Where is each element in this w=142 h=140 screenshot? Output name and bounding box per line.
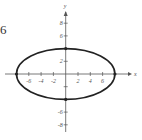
y-tick-label: -8 (58, 122, 63, 128)
x-tick-label: -4 (39, 78, 44, 84)
x-tick-label: 6 (101, 78, 104, 84)
y-axis-arrow-icon (64, 11, 68, 16)
y-tick-label: 2 (60, 58, 63, 64)
x-axis-label: x (133, 71, 137, 77)
y-tick-label: -6 (58, 109, 63, 115)
x-tick-label: 4 (89, 78, 92, 84)
x-tick-label: 2 (77, 78, 80, 84)
y-axis-label: y (63, 3, 67, 9)
x-tick-label: -6 (26, 78, 31, 84)
vertex-point (113, 72, 116, 75)
vertex-point (64, 47, 67, 50)
y-tick-label: 6 (60, 33, 63, 39)
y-tick-label: 8 (60, 20, 63, 26)
x-axis-arrow-icon (128, 72, 132, 76)
ellipse-graph: xy-6-4-2246862-6-8 (0, 0, 142, 140)
vertex-point (15, 72, 18, 75)
vertex-point (64, 98, 67, 101)
x-tick-label: -2 (51, 78, 56, 84)
